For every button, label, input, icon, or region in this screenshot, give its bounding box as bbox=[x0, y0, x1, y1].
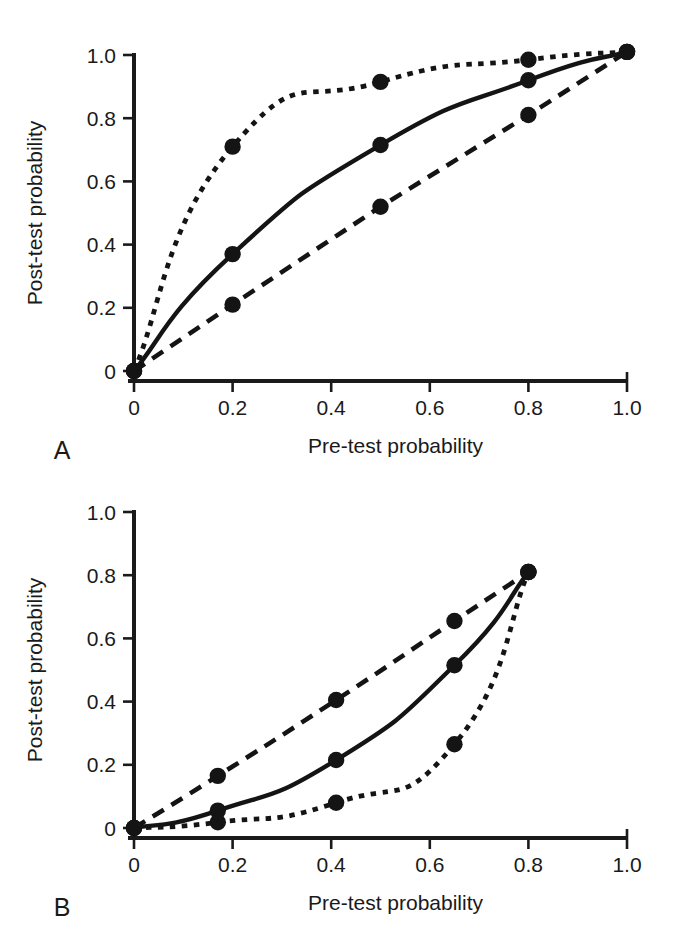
data-point-marker bbox=[520, 52, 536, 68]
chart-panel-b: 00.20.40.60.81.000.20.40.60.81.0Pre-test… bbox=[0, 457, 684, 927]
data-point-marker bbox=[210, 814, 226, 830]
x-axis-title: Pre-test probability bbox=[308, 434, 484, 457]
x-tick-label: 0.8 bbox=[514, 396, 543, 419]
y-tick-label: 0.8 bbox=[87, 107, 116, 130]
y-tick-label: 0 bbox=[104, 817, 116, 840]
figure-root: 00.20.40.60.81.000.20.40.60.81.0Pre-test… bbox=[0, 0, 684, 927]
chart-panel-a: 00.20.40.60.81.000.20.40.60.81.0Pre-test… bbox=[0, 0, 684, 470]
data-point-marker bbox=[446, 657, 462, 673]
panel-a-plot: 00.20.40.60.81.000.20.40.60.81.0Pre-test… bbox=[0, 0, 684, 470]
data-point-marker bbox=[126, 363, 142, 379]
y-tick-label: 0.6 bbox=[87, 170, 116, 193]
y-axis-title: Post-test probability bbox=[23, 577, 46, 762]
x-tick-label: 0.4 bbox=[317, 853, 347, 876]
x-tick-label: 1.0 bbox=[612, 853, 641, 876]
x-tick-label: 0.2 bbox=[218, 853, 247, 876]
data-point-marker bbox=[224, 138, 240, 154]
x-tick-label: 0.6 bbox=[415, 853, 444, 876]
data-point-marker bbox=[328, 795, 344, 811]
panel-letter: B bbox=[54, 893, 71, 921]
data-point-marker bbox=[446, 736, 462, 752]
data-point-marker bbox=[328, 692, 344, 708]
y-tick-label: 1.0 bbox=[87, 501, 116, 524]
x-tick-label: 0.8 bbox=[514, 853, 543, 876]
data-point-marker bbox=[224, 246, 240, 262]
data-point-marker bbox=[520, 564, 536, 580]
data-point-marker bbox=[372, 74, 388, 90]
data-point-marker bbox=[224, 296, 240, 312]
y-tick-label: 1.0 bbox=[87, 44, 116, 67]
y-tick-label: 0.4 bbox=[87, 690, 117, 713]
data-point-marker bbox=[520, 72, 536, 88]
x-tick-label: 1.0 bbox=[612, 396, 641, 419]
data-point-marker bbox=[372, 137, 388, 153]
x-tick-label: 0 bbox=[128, 396, 140, 419]
data-point-marker bbox=[446, 613, 462, 629]
x-tick-label: 0.2 bbox=[218, 396, 247, 419]
y-tick-label: 0.6 bbox=[87, 627, 116, 650]
data-point-marker bbox=[126, 820, 142, 836]
y-tick-label: 0.2 bbox=[87, 753, 116, 776]
x-tick-label: 0.6 bbox=[415, 396, 444, 419]
y-tick-label: 0.4 bbox=[87, 233, 117, 256]
data-point-marker bbox=[619, 44, 635, 60]
data-point-marker bbox=[520, 107, 536, 123]
x-tick-label: 0 bbox=[128, 853, 140, 876]
y-tick-label: 0.8 bbox=[87, 564, 116, 587]
data-point-marker bbox=[328, 752, 344, 768]
x-tick-label: 0.4 bbox=[317, 396, 347, 419]
panel-b-plot: 00.20.40.60.81.000.20.40.60.81.0Pre-test… bbox=[0, 457, 684, 927]
data-point-marker bbox=[372, 198, 388, 214]
x-axis-title: Pre-test probability bbox=[308, 891, 484, 914]
y-axis-title: Post-test probability bbox=[23, 120, 46, 305]
y-tick-label: 0 bbox=[104, 360, 116, 383]
data-point-marker bbox=[210, 768, 226, 784]
y-tick-label: 0.2 bbox=[87, 296, 116, 319]
